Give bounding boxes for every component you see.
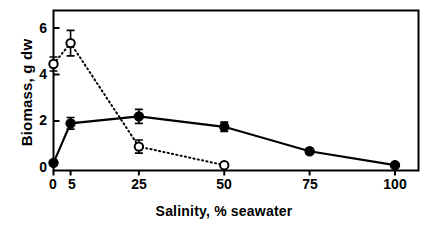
data-point-filled-circle xyxy=(66,119,75,128)
data-point-open-circle xyxy=(135,142,143,150)
data-point-filled-circle xyxy=(305,147,314,156)
data-point-open-circle xyxy=(220,161,228,169)
data-point-filled-circle xyxy=(49,158,58,167)
plot-frame xyxy=(54,11,419,171)
data-point-open-circle xyxy=(49,60,57,68)
data-point-filled-circle xyxy=(390,161,399,170)
plot-area xyxy=(0,0,429,229)
data-point-filled-circle xyxy=(220,122,229,131)
data-point-open-circle xyxy=(66,39,74,47)
data-point-filled-circle xyxy=(134,112,143,121)
series-open-circle-series xyxy=(49,30,228,169)
chart-figure: Biomass, g dw 6 4 2 0 0 5 25 50 75 100 S… xyxy=(0,0,429,229)
